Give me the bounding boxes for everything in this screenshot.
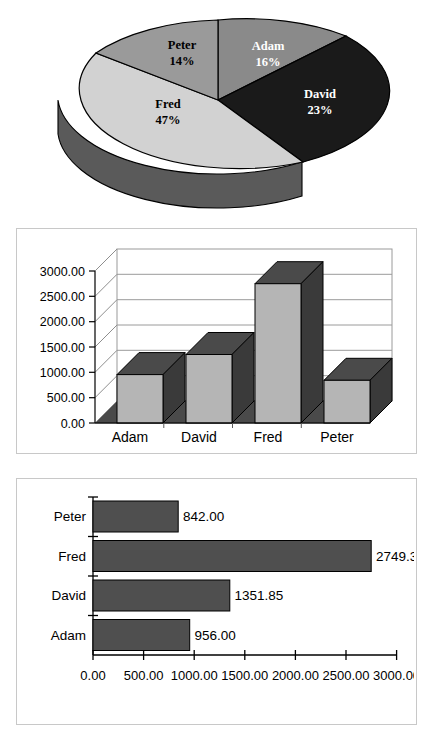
x-category-label-fred: Fred: [254, 429, 283, 445]
hbar-bar-peter[interactable]: [93, 501, 178, 532]
pie-label-peter-name: Peter: [168, 38, 197, 52]
hbar-x-tick-label-500: 500.00: [124, 668, 164, 683]
hbar-x-tick-label-1500: 1500.00: [221, 668, 268, 683]
y-tick-label-2000: 2000.00: [40, 315, 85, 329]
x-category-label-david: David: [181, 429, 217, 445]
pie-label-fred-name: Fred: [155, 97, 181, 111]
hbar-category-label-david: David: [51, 588, 86, 603]
bar-fred[interactable]: [255, 262, 323, 423]
pie-label-david-name: David: [304, 87, 336, 101]
hbar-x-tick-label-2500: 2500.00: [323, 668, 370, 683]
hbar-x-tick-label-2000: 2000.00: [272, 668, 319, 683]
hbar-chart-panel: Peter Fred David Adam 842.00 2749.30 135…: [16, 478, 417, 725]
hbar-value-label-peter: 842.00: [183, 509, 224, 524]
y-tick-label-1500: 1500.00: [40, 341, 85, 355]
x-axis-ticks: [164, 423, 301, 428]
pie-top-face: [79, 19, 389, 169]
hbar-chart: Peter Fred David Adam 842.00 2749.30 135…: [17, 479, 414, 722]
hbar-value-label-adam: 956.00: [195, 628, 236, 643]
hbar-category-label-adam: Adam: [51, 628, 86, 643]
hbar-value-label-david: 1351.85: [235, 588, 284, 603]
pie-label-david-percent: 23%: [308, 103, 333, 117]
pie-chart-panel: Adam 16% David 23% Fred 47% Peter 14%: [0, 0, 425, 222]
hbar-bar-david[interactable]: [93, 580, 230, 611]
hbar-category-label-peter: Peter: [54, 509, 87, 524]
pie-label-peter-percent: 14%: [170, 54, 195, 68]
hbar-bar-fred[interactable]: [93, 541, 371, 572]
bar-david[interactable]: [186, 333, 254, 424]
pie-label-adam-name: Adam: [252, 39, 285, 53]
y-tick-label-1000: 1000.00: [40, 366, 85, 380]
y-tick-label-0: 0.00: [61, 417, 85, 431]
x-category-label-adam: Adam: [112, 429, 149, 445]
hbar-x-tick-label-1000: 1000.00: [171, 668, 218, 683]
hbar-bar-adam[interactable]: [93, 620, 190, 651]
hbar-category-label-fred: Fred: [58, 549, 86, 564]
hbar-x-tick-label-0: 0.00: [80, 668, 105, 683]
column-chart: 3000.00 2500.00 2000.00 1500.00 1000.00 …: [17, 229, 414, 451]
pie-label-fred-percent: 47%: [156, 113, 181, 127]
x-category-label-peter: Peter: [320, 429, 354, 445]
y-tick-label-2500: 2500.00: [40, 290, 85, 304]
axis-depth-lines: [95, 249, 117, 423]
pie-label-adam-percent: 16%: [256, 55, 281, 69]
hbar-value-label-fred: 2749.30: [376, 549, 414, 564]
y-axis-ticks: [89, 271, 95, 423]
hbar-x-tick-label-3000: 3000.00: [373, 668, 414, 683]
y-tick-label-500: 500.00: [47, 391, 85, 405]
pie-chart: Adam 16% David 23% Fred 47% Peter 14%: [0, 0, 425, 222]
column-chart-panel: 3000.00 2500.00 2000.00 1500.00 1000.00 …: [16, 228, 417, 454]
y-tick-label-3000: 3000.00: [40, 265, 85, 279]
